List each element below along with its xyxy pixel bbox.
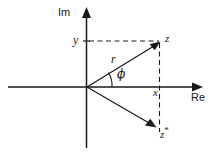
vector-z-arrowhead — [150, 42, 161, 51]
point-z-label: z — [165, 33, 169, 44]
vector-z-conjugate — [87, 87, 157, 128]
imaginary-axis-label: Im — [58, 7, 70, 18]
argument-phi-label: ϕ — [117, 68, 125, 80]
argand-diagram-figure: Im Re y x r ϕ z z* — [0, 0, 216, 156]
imaginary-axis-arrowhead — [82, 7, 91, 18]
imaginary-axis — [82, 7, 91, 148]
diagram-canvas — [0, 0, 216, 156]
vector-z-conjugate-arrowhead — [145, 119, 157, 128]
modulus-r-label: r — [111, 53, 116, 65]
vector-z-conjugate-line — [87, 87, 149, 123]
real-axis — [8, 83, 203, 92]
angle-arc-phi — [109, 73, 113, 88]
real-axis-label: Re — [191, 92, 205, 103]
x-coordinate-label: x — [153, 87, 158, 98]
y-coordinate-label: y — [73, 34, 78, 46]
z-conjugate-star: * — [164, 125, 169, 135]
point-z-conjugate-label: z* — [160, 126, 169, 140]
